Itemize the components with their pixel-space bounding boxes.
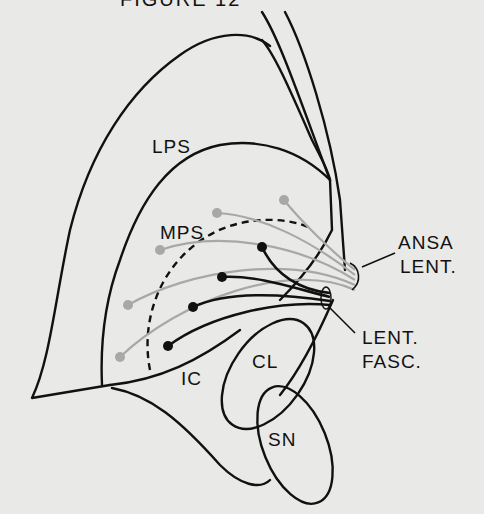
ic-bottom-curve	[112, 388, 270, 485]
ic-lower-border	[110, 330, 240, 385]
label-sn: SN	[268, 430, 296, 450]
label-ansa-line2: LENT.	[400, 257, 457, 277]
cl-outline	[203, 303, 333, 446]
label-lps: LPS	[152, 137, 191, 157]
label-cl: CL	[252, 352, 278, 372]
figure-caption-fragment: FIGURE 12	[120, 0, 241, 11]
lps-outline	[32, 35, 270, 398]
label-fasc-line2: FASC.	[362, 352, 422, 372]
label-mps: MPS	[160, 223, 204, 243]
fasciculus-fibers	[168, 247, 330, 346]
ansa-leader-line	[362, 253, 395, 267]
basal-ganglia-diagram: FIGURE 12	[0, 0, 484, 514]
fasciculus-leader-line	[330, 308, 355, 333]
ansa-origin-dots	[115, 195, 289, 362]
mps-outline	[102, 143, 330, 385]
label-ansa-line1: ANSA	[398, 233, 454, 253]
label-ic: IC	[181, 369, 202, 389]
label-fasc-line1: LENT.	[362, 328, 419, 348]
ansa-fibers	[120, 200, 355, 357]
